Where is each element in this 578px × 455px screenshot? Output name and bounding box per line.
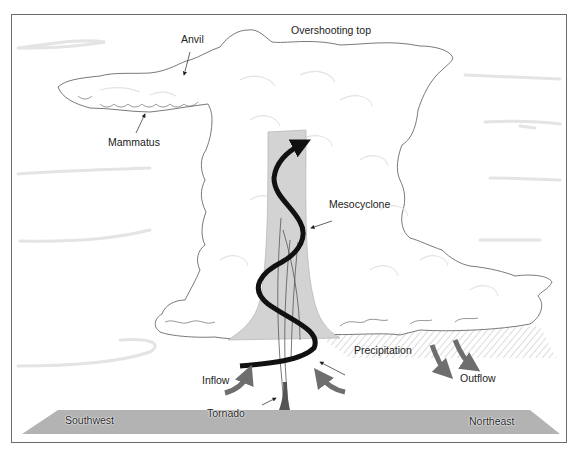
label-outflow: Outflow	[460, 373, 496, 384]
label-anvil: Anvil	[181, 34, 204, 45]
label-precipitation: Precipitation	[354, 345, 412, 356]
label-southwest: Southwest	[65, 415, 114, 426]
label-inflow: Inflow	[202, 375, 229, 386]
label-northeast: Northeast	[469, 416, 515, 427]
label-mesocyclone: Mesocyclone	[329, 199, 390, 210]
label-tornado: Tornado	[207, 408, 245, 419]
label-overshooting-top: Overshooting top	[291, 25, 371, 36]
label-mammatus: Mammatus	[108, 137, 160, 148]
supercell-diagram	[0, 0, 578, 455]
